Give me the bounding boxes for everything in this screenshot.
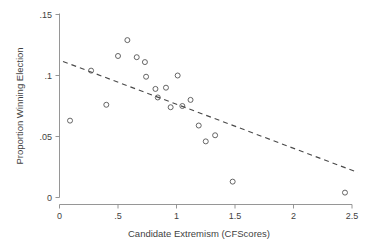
data-point [104, 102, 109, 107]
data-point [188, 97, 193, 102]
data-point [116, 53, 121, 58]
x-tick-label-3: 1.5 [229, 211, 242, 221]
x-axis-ticks [60, 205, 353, 209]
data-point [125, 38, 130, 43]
y-tick-label-0: 0 [47, 193, 52, 203]
data-point [153, 86, 158, 91]
y-tick-label-2: .1 [44, 71, 52, 81]
data-point [175, 73, 180, 78]
data-point [213, 133, 218, 138]
data-point [163, 85, 168, 90]
x-tick-label-4: 2 [291, 211, 296, 221]
y-tick-label-3: .15 [39, 10, 52, 20]
y-tick-label-1: .05 [39, 132, 52, 142]
scatter-plot-canvas: 0 .05 .1 .15 0 .5 1 1.5 2 2.5 Candidate … [0, 0, 379, 246]
data-point [68, 118, 73, 123]
data-point [144, 74, 149, 79]
data-point [342, 190, 347, 195]
y-axis-ticks [56, 15, 60, 198]
regression-fit-line [63, 61, 358, 172]
x-axis-title: Candidate Extremism (CFScores) [128, 228, 270, 239]
data-point [134, 55, 139, 60]
x-tick-label-0: 0 [57, 211, 62, 221]
data-point [196, 123, 201, 128]
chart-figure: 0 .05 .1 .15 0 .5 1 1.5 2 2.5 Candidate … [0, 0, 379, 246]
data-point [203, 139, 208, 144]
data-point [142, 60, 147, 65]
x-tick-label-2: 1 [174, 211, 179, 221]
x-tick-label-5: 2.5 [346, 211, 359, 221]
x-tick-label-1: .5 [114, 211, 122, 221]
data-point [168, 105, 173, 110]
y-axis-title: Proportion Winning Election [14, 47, 25, 164]
data-point [230, 179, 235, 184]
